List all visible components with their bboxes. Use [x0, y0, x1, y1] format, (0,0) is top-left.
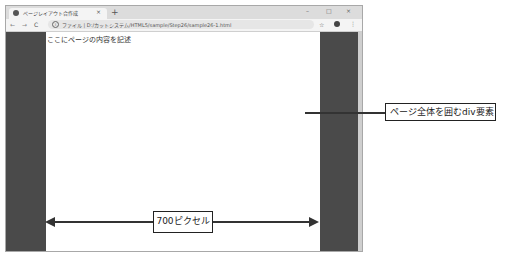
arrow-right-icon — [309, 217, 319, 227]
forward-button[interactable]: → — [22, 21, 27, 28]
div-callout-label: ページ全体を囲むdiv要素 — [385, 103, 496, 121]
tab-active[interactable]: ページレイアウト合作成 × — [9, 8, 107, 19]
url-input[interactable]: i ファイル | D:/カットシステム/HTML5/sample/Step26/… — [48, 20, 314, 29]
address-bar-row: ← → C i ファイル | D:/カットシステム/HTML5/sample/S… — [6, 19, 362, 32]
minimize-button[interactable]: – — [306, 7, 309, 14]
back-button[interactable]: ← — [10, 21, 15, 28]
page-body-text: ここにページの内容を記述 — [47, 34, 131, 44]
tab-close-icon[interactable]: × — [96, 8, 101, 15]
tab-bar: ページレイアウト合作成 × + – □ × — [6, 6, 362, 19]
new-tab-button[interactable]: + — [111, 7, 119, 17]
maximize-button[interactable]: □ — [326, 7, 332, 14]
info-icon[interactable]: i — [52, 21, 59, 28]
scrollbar[interactable] — [358, 32, 363, 252]
close-window-button[interactable]: × — [346, 7, 351, 14]
favicon-icon — [13, 10, 19, 16]
right-margin-band — [320, 32, 358, 252]
account-icon[interactable] — [334, 21, 340, 27]
callout-leader-line — [305, 112, 385, 114]
reload-button[interactable]: C — [34, 21, 38, 28]
bookmark-star-icon[interactable]: ☆ — [319, 21, 324, 28]
arrow-left-icon — [45, 217, 55, 227]
tab-title: ページレイアウト合作成 — [23, 9, 78, 16]
width-label: 700ピクセル — [153, 211, 213, 233]
url-text: ファイル | D:/カットシステム/HTML5/sample/Step26/sa… — [62, 21, 231, 28]
menu-icon[interactable]: ⋮ — [350, 20, 356, 27]
left-margin-band — [6, 32, 46, 252]
